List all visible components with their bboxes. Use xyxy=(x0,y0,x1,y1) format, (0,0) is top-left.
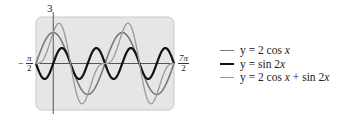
legend-swatch-sin2x xyxy=(220,63,234,65)
x-max-denominator: 2 xyxy=(178,64,189,73)
legend-swatch-sum xyxy=(220,77,234,78)
legend-label-sin2x: y = sin 2x xyxy=(240,58,285,72)
legend-item-sin2x: y = sin 2x xyxy=(220,58,329,72)
legend-item-sum: y = 2 cos x + sin 2x xyxy=(220,71,329,85)
y-max-label: 3 xyxy=(47,2,53,14)
legend-label-sum: y = 2 cos x + sin 2x xyxy=(240,71,329,85)
x-min-sign: − xyxy=(18,58,24,69)
x-min-denominator: 2 xyxy=(26,64,33,73)
legend-label-2cosx: y = 2 cos x xyxy=(240,44,290,58)
legend: y = 2 cos x y = sin 2x y = 2 cos x + sin… xyxy=(220,44,329,85)
x-max-label: 7π 2 xyxy=(178,54,189,73)
legend-swatch-2cosx xyxy=(220,50,234,51)
x-min-label: π 2 xyxy=(26,54,33,73)
legend-item-2cosx: y = 2 cos x xyxy=(220,44,329,58)
